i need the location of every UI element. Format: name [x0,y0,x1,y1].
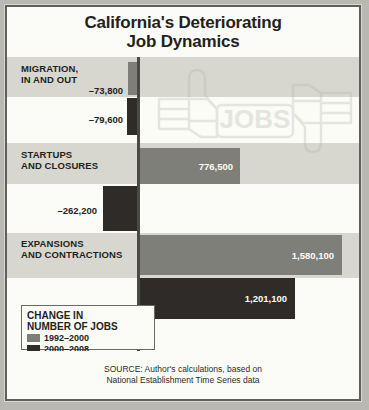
value-label-migration-1992: –73,800 [69,85,123,97]
category-label-startups-line2: AND CLOSURES [21,160,98,171]
bar-startups-2000 [103,186,137,231]
category-label-startups: STARTUPS AND CLOSURES [21,149,98,171]
legend-swatch-1992-2000 [27,334,40,342]
category-label-migration-line1: MIGRATION, [21,63,78,74]
chart-plot-area: JOBS MIGRATION, IN AND OUT –73,800 –79,6… [7,57,359,354]
legend-label-1992-2000: 1992–2000 [44,333,89,343]
chart-legend: CHANGE IN NUMBER OF JOBS 1992–2000 2000–… [21,305,155,350]
value-label-migration-2000: –79,600 [69,114,123,126]
thumbs-up-icon [159,70,217,137]
jobs-watermark-label: JOBS [220,104,291,134]
category-label-expansions-line1: EXPANSIONS [21,238,122,249]
chart-frame: California's Deteriorating Job Dynamics [5,5,361,401]
page-title: California's Deteriorating Job Dynamics [7,7,359,57]
value-label-startups-2000: –262,200 [35,205,97,217]
category-label-expansions: EXPANSIONS AND CONTRACTIONS [21,238,122,260]
category-label-startups-line1: STARTUPS [21,149,98,160]
legend-title-line1: CHANGE IN [27,310,149,321]
legend-item-1992-2000: 1992–2000 [27,333,149,343]
source-note: SOURCE: Author's calculations, based on … [7,351,359,399]
category-label-expansions-line2: AND CONTRACTIONS [21,249,122,260]
source-line-2: National Establishment Time Series data [106,375,259,386]
value-label-expansions-2000: 1,201,100 [140,293,287,305]
category-label-migration-line2: IN AND OUT [21,74,78,85]
title-line-1: California's Deteriorating [84,13,281,32]
bar-migration-2000 [127,98,137,135]
value-label-expansions-1992: 1,580,100 [140,250,334,262]
jobs-watermark: JOBS [155,65,355,157]
value-label-startups-1992: 776,500 [140,161,233,173]
bar-migration-1992 [128,62,137,95]
source-line-1: SOURCE: Author's calculations, based on [104,364,262,375]
legend-title-line2: NUMBER OF JOBS [27,321,149,332]
title-line-2: Job Dynamics [127,32,240,51]
thumbs-down-icon [293,85,351,152]
category-label-migration: MIGRATION, IN AND OUT [21,63,78,85]
